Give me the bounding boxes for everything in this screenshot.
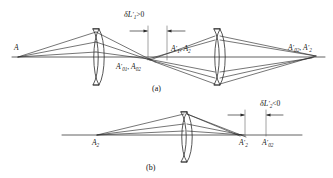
label-image-A2-prime: A′2 <box>239 139 248 147</box>
label-object-point-A: A <box>14 44 19 52</box>
figure-canvas: δL′1>0 A A′01, A02 A′1, A2 A′02, A′2 (a)… <box>0 0 333 178</box>
label-image-A1-A2: A′1, A2 <box>171 45 191 53</box>
annotation-delta-L1: δL′1>0 <box>124 11 144 19</box>
aberration-gap-a <box>130 26 185 60</box>
label-image-A01-A02: A′01, A02 <box>116 63 141 71</box>
caption-panel-b: (b) <box>146 163 155 172</box>
ray-bundle-b-outgoing <box>187 114 246 137</box>
ray-bundle-b-incoming <box>97 114 184 135</box>
caption-panel-a: (a) <box>152 84 161 93</box>
annotation-delta-L2: δL′2<0 <box>260 100 280 108</box>
ray-bundle-a-incoming <box>18 32 96 57</box>
label-object-point-A2: A2 <box>92 139 99 147</box>
optical-diagram-svg <box>0 0 333 178</box>
label-image-A02-prime: A′02 <box>262 139 273 147</box>
label-image-A02-A2: A′02, A′2 <box>288 44 312 52</box>
aberration-gap-b <box>228 110 283 136</box>
lens-3-glyph <box>181 112 192 162</box>
ray-bundle-a-between-lenses <box>96 32 215 84</box>
